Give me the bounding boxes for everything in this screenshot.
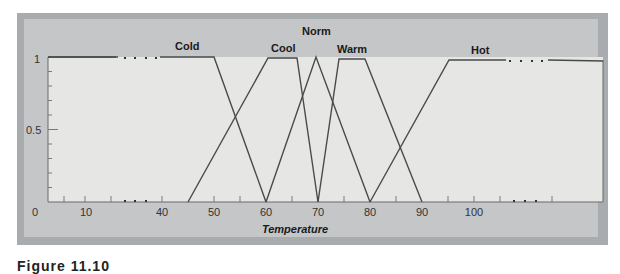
x-label-70: 70 xyxy=(312,206,324,218)
x-axis-title: Temperature xyxy=(262,223,328,235)
label-cool: Cool xyxy=(271,42,295,54)
y-label-1: 1 xyxy=(34,53,40,65)
series-hot-flat-right xyxy=(548,60,603,61)
x-label-40: 40 xyxy=(156,206,168,218)
label-cold: Cold xyxy=(175,40,199,52)
x-label-50: 50 xyxy=(208,206,220,218)
label-warm: Warm xyxy=(337,43,367,55)
figure-caption: Figure 11.10 xyxy=(17,258,110,274)
label-norm: Norm xyxy=(302,25,331,37)
x-label-90: 90 xyxy=(416,206,428,218)
x-label-100: 100 xyxy=(465,206,483,218)
y-label-0-5: 0.5 xyxy=(26,124,41,136)
plot-area xyxy=(48,57,603,202)
x-label-80: 80 xyxy=(364,206,376,218)
x-label-0: 0 xyxy=(32,206,38,218)
x-label-10: 10 xyxy=(80,206,92,218)
x-label-60: 60 xyxy=(260,206,272,218)
label-hot: Hot xyxy=(471,44,490,56)
